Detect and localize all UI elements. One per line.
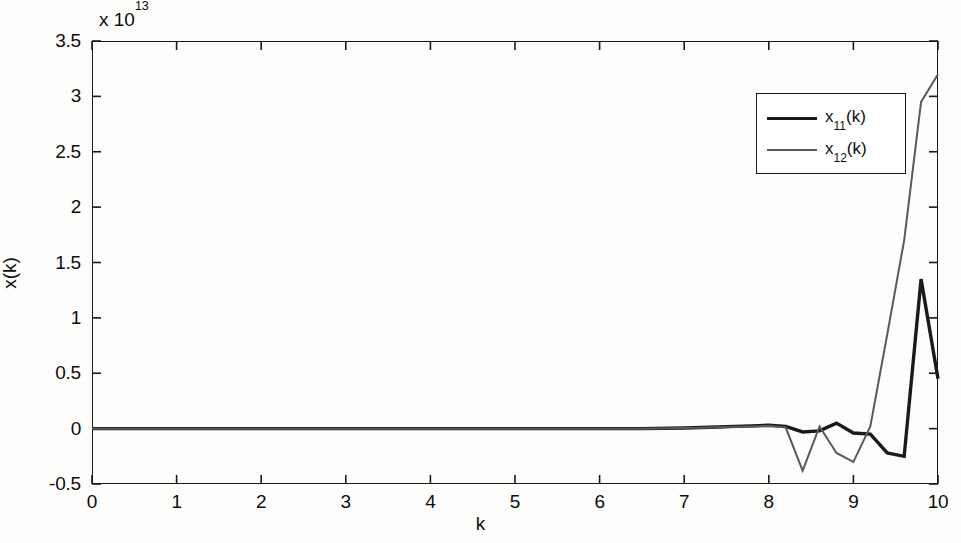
figure-canvas: x 1013 x(k) k -0.500.511.522.533.5012345… xyxy=(0,0,961,543)
legend-line-swatch xyxy=(767,149,817,151)
y-tick-label: -0.5 xyxy=(0,473,81,495)
y-tick-label: 1.5 xyxy=(0,252,81,274)
y-tick-label: 2 xyxy=(0,196,81,218)
legend-label-subscript: 11 xyxy=(834,119,846,133)
y-tick-label: 0.5 xyxy=(0,362,81,384)
legend-line-swatch xyxy=(767,117,817,120)
x-tick-label: 2 xyxy=(256,491,266,513)
legend-label-suffix: (k) xyxy=(846,107,866,126)
x-tick-label: 8 xyxy=(764,491,774,513)
legend-label-base: x xyxy=(825,107,834,126)
y-tick-label: 1 xyxy=(0,307,81,329)
y-tick-label: 3.5 xyxy=(0,30,81,52)
plot-area xyxy=(0,0,961,543)
legend-label: x11(k) xyxy=(825,107,866,129)
legend-item-11: x11(k) xyxy=(757,104,907,132)
x-tick-label: 9 xyxy=(848,491,858,513)
x-tick-label: 3 xyxy=(341,491,351,513)
legend-item-12: x12(k) xyxy=(757,136,907,164)
x-tick-label: 10 xyxy=(928,491,949,513)
x-tick-label: 7 xyxy=(679,491,689,513)
legend-label-subscript: 12 xyxy=(834,151,847,165)
x-tick-label: 0 xyxy=(87,491,97,513)
x-tick-label: 6 xyxy=(594,491,604,513)
y-tick-label: 3 xyxy=(0,85,81,107)
legend-label-base: x xyxy=(825,139,834,158)
legend-label: x12(k) xyxy=(825,139,867,161)
legend: x11(k)x12(k) xyxy=(756,93,906,174)
y-tick-label: 0 xyxy=(0,418,81,440)
x-tick-label: 1 xyxy=(171,491,181,513)
legend-label-suffix: (k) xyxy=(847,139,867,158)
x-tick-label: 4 xyxy=(425,491,435,513)
x-tick-label: 5 xyxy=(510,491,520,513)
series-line-x11 xyxy=(92,279,938,456)
y-tick-label: 2.5 xyxy=(0,141,81,163)
